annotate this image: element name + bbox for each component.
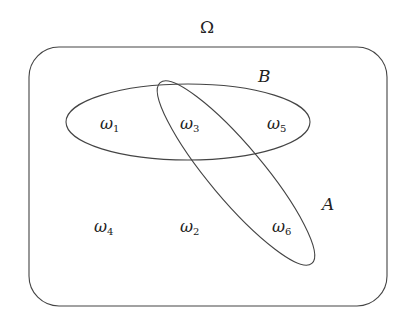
svg-text:ω6: ω6	[272, 217, 291, 237]
set-b-label: B	[257, 66, 271, 86]
universe-label: Ω	[200, 17, 214, 37]
venn-diagram: Ω B A ω1 ω3 ω5 ω4 ω2 ω6	[0, 0, 414, 322]
outcome-w1: ω1	[100, 114, 119, 134]
svg-text:ω4: ω4	[94, 217, 113, 237]
svg-text:ω1: ω1	[100, 114, 119, 134]
outcome-w4: ω4	[94, 217, 113, 237]
outcome-w5: ω5	[267, 114, 286, 134]
svg-text:ω3: ω3	[180, 114, 199, 134]
outcome-w6: ω6	[272, 217, 291, 237]
outcome-w3: ω3	[180, 114, 199, 134]
svg-text:ω5: ω5	[267, 114, 286, 134]
set-a-label: A	[320, 194, 334, 214]
svg-text:ω2: ω2	[180, 217, 199, 237]
outcome-w2: ω2	[180, 217, 199, 237]
universe-box	[29, 47, 387, 306]
set-a-ellipse	[139, 65, 332, 280]
